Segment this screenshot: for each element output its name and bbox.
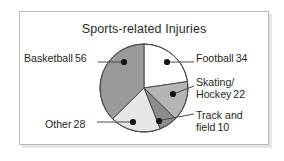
pie-label-track-and-field-value: 10 [217, 121, 229, 133]
pie-label-basketball-value: 56 [75, 52, 87, 64]
marker-dot-football [164, 59, 170, 65]
pie-label-track-and-field-line1: Track and [196, 109, 243, 121]
pie-label-basketball-text: Basketball [24, 52, 73, 64]
pie-label-track-and-field: Track and field10 [196, 109, 243, 134]
pie-label-other: Other28 [45, 118, 85, 130]
marker-dot-track-and-field [156, 118, 162, 124]
pie-label-football: Football34 [196, 52, 248, 64]
pie-label-other-value: 28 [74, 118, 86, 130]
pie-label-other-text: Other [45, 118, 72, 130]
pie-label-basketball: Basketball56 [24, 52, 87, 64]
pie-label-football-text: Football [196, 52, 234, 64]
marker-dot-other [130, 119, 136, 125]
chart-figure: Sports-related Injuries [0, 0, 284, 161]
pie-label-skating-hockey-value: 22 [233, 88, 245, 100]
pie-label-football-value: 34 [236, 52, 248, 64]
pie-label-skating-hockey: Skating/ Hockey22 [196, 76, 245, 101]
pie-label-skating-hockey-line2-wrap: Hockey22 [196, 88, 245, 100]
pie-label-track-and-field-line2: field [196, 121, 215, 133]
pie-slices [100, 44, 188, 132]
pie-label-skating-hockey-line2: Hockey [196, 88, 231, 100]
marker-dot-basketball [121, 59, 127, 65]
marker-dot-skating-hockey [170, 91, 176, 97]
pie-label-track-and-field-line2-wrap: field10 [196, 121, 243, 133]
pie-slice-football[interactable] [144, 44, 188, 88]
pie-label-skating-hockey-line1: Skating/ [196, 76, 245, 88]
